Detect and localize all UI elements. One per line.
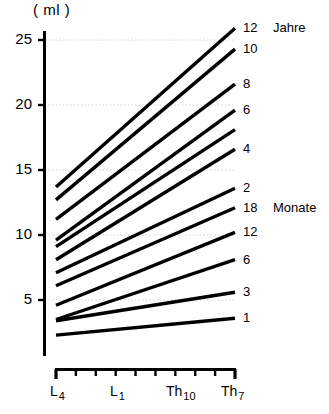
series-end-label: 6 [243, 102, 250, 117]
series-end-label: 1 [243, 310, 250, 325]
series-unit-caption: Monate [273, 200, 316, 215]
x-tick-sub-l4: 4 [58, 390, 65, 402]
series-end-label: 2 [243, 180, 250, 195]
series-line [56, 292, 235, 321]
series-unit-caption: Jahre [273, 20, 306, 35]
chart-container: ( ml ) 25 20 15 10 5 [0, 0, 329, 414]
x-tick-base-l1: L [110, 383, 118, 399]
y-tick-label-10: 10 [0, 225, 32, 242]
y-tick-label-15: 15 [0, 160, 32, 177]
x-tick-base-th10: Th [166, 383, 182, 399]
y-tick-label-5: 5 [0, 290, 32, 307]
x-tick-sub-th10: 10 [182, 390, 195, 402]
series-lines [56, 28, 235, 335]
series-end-label: 4 [243, 141, 250, 156]
x-tick-label-l4: L4 [50, 383, 65, 402]
x-tick-label-th10: Th10 [166, 383, 196, 402]
series-end-label: 3 [243, 284, 250, 299]
x-tick-base-th7: Th [221, 383, 237, 399]
x-tick-sub-th7: 7 [237, 390, 244, 402]
series-end-label: 10 [243, 41, 257, 56]
x-axis-bracket [55, 369, 236, 379]
x-tick-label-l1: L1 [110, 383, 125, 402]
y-tick-label-25: 25 [0, 30, 32, 47]
series-line [56, 318, 235, 335]
x-tick-label-th7: Th7 [221, 383, 244, 402]
series-end-label: 12 [243, 224, 257, 239]
x-tick-base-l4: L [50, 383, 58, 399]
series-line [56, 28, 235, 187]
y-tick-label-20: 20 [0, 95, 32, 112]
series-end-label: 12 [243, 20, 257, 35]
x-tick-sub-l1: 1 [118, 390, 125, 402]
series-end-label: 8 [243, 76, 250, 91]
series-end-label: 18 [243, 200, 257, 215]
series-end-label: 6 [243, 252, 250, 267]
y-axis [38, 31, 46, 356]
